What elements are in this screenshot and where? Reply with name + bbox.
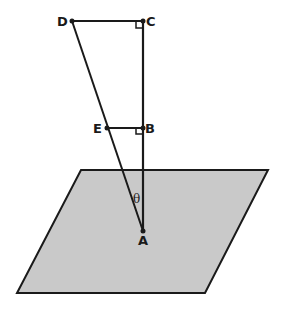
angle-theta-label: θ [133,192,140,206]
label-d: D [57,14,68,29]
label-e: E [93,121,102,136]
point-c [141,19,146,24]
point-e [105,126,110,131]
label-a: A [138,233,148,248]
point-d [70,19,75,24]
label-b: B [145,121,155,136]
geometry-diagram: D C E B A θ [0,0,282,311]
label-c: C [146,14,156,29]
